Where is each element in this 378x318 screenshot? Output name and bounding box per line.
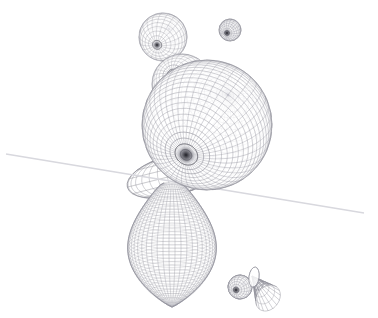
wireframe-scene-svg (0, 0, 378, 318)
main-sphere (142, 60, 272, 190)
pear-body (128, 182, 217, 307)
cone-funnel (248, 266, 281, 311)
wireframe-render-canvas (0, 0, 378, 318)
small-sphere-upper-right (219, 19, 241, 41)
small-sphere-lower-right (228, 275, 252, 299)
